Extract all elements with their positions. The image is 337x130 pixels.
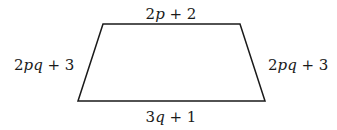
trapezoid-shape [78, 24, 265, 101]
left-side-label: 2pq + 3 [14, 56, 74, 74]
bottom-side-label: 3q + 1 [146, 108, 197, 126]
right-side-label: 2pq + 3 [268, 56, 328, 74]
trapezoid-diagram: 2p + 2 2pq + 3 2pq + 3 3q + 1 [0, 0, 337, 130]
top-side-label: 2p + 2 [146, 5, 197, 23]
